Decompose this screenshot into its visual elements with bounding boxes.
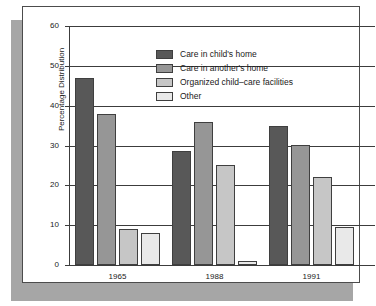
bar	[335, 227, 354, 265]
x-tick-label: 1988	[185, 272, 245, 281]
y-tick-label: 30	[33, 142, 59, 150]
bar	[291, 145, 310, 265]
legend-label: Care in child's home	[180, 50, 257, 59]
legend-item: Care in another's home	[156, 62, 336, 75]
legend-swatch	[156, 64, 173, 73]
bar	[172, 151, 191, 265]
legend-label: Care in another's home	[180, 64, 268, 73]
legend-label: Organized child–care facilities	[180, 78, 293, 87]
bar	[141, 233, 160, 265]
x-axis-line	[69, 265, 375, 266]
legend-item: Care in child's home	[156, 48, 336, 61]
chart-legend: Care in child's homeCare in another's ho…	[156, 48, 336, 104]
bar	[97, 114, 116, 265]
y-axis-title: Percentage Distribution	[57, 25, 66, 155]
bar	[238, 261, 257, 265]
bar	[216, 165, 235, 265]
x-tick-label: 1965	[88, 272, 148, 281]
bar	[119, 229, 138, 265]
y-tick-label: 60	[33, 22, 59, 30]
bar	[269, 126, 288, 265]
bar	[194, 122, 213, 265]
legend-item: Other	[156, 90, 336, 103]
y-tick-label: 20	[33, 181, 59, 189]
legend-swatch	[156, 92, 173, 101]
x-tick-label: 1991	[282, 272, 342, 281]
chart-figure: Percentage Distribution 0102030405060 19…	[0, 0, 376, 306]
y-tick-label: 50	[33, 62, 59, 70]
bar	[313, 177, 332, 265]
chart-card: Percentage Distribution 0102030405060 19…	[22, 6, 360, 283]
legend-label: Other	[180, 92, 201, 101]
legend-swatch	[156, 78, 173, 87]
y-tick-label: 0	[33, 261, 59, 269]
bar	[75, 78, 94, 265]
legend-swatch	[156, 50, 173, 59]
legend-item: Organized child–care facilities	[156, 76, 336, 89]
y-tick-label: 10	[33, 221, 59, 229]
y-tick-mark	[65, 265, 69, 266]
y-tick-label: 40	[33, 102, 59, 110]
